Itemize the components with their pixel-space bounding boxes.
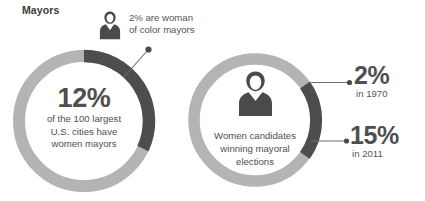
stat-2011-year: in 2011: [350, 148, 399, 160]
infographic-root: Mayors 2% are woman of color mayors: [0, 0, 425, 201]
stat-1970-value: 2%: [354, 62, 389, 88]
leader-dot-1970: [347, 80, 352, 85]
woman-person-icon: [236, 70, 275, 117]
leader-dot-callout: [145, 46, 151, 52]
stat-1970: 2% in 1970: [354, 62, 389, 100]
donut-left-fill: [84, 56, 149, 149]
stat-2011: 15% in 2011: [350, 122, 399, 160]
leader-dot-2011: [344, 138, 349, 143]
donut-charts-canvas: [0, 0, 425, 201]
stat-2011-value: 15%: [350, 122, 399, 148]
donut-right-fill: [305, 85, 316, 155]
stat-1970-year: in 1970: [354, 88, 389, 100]
